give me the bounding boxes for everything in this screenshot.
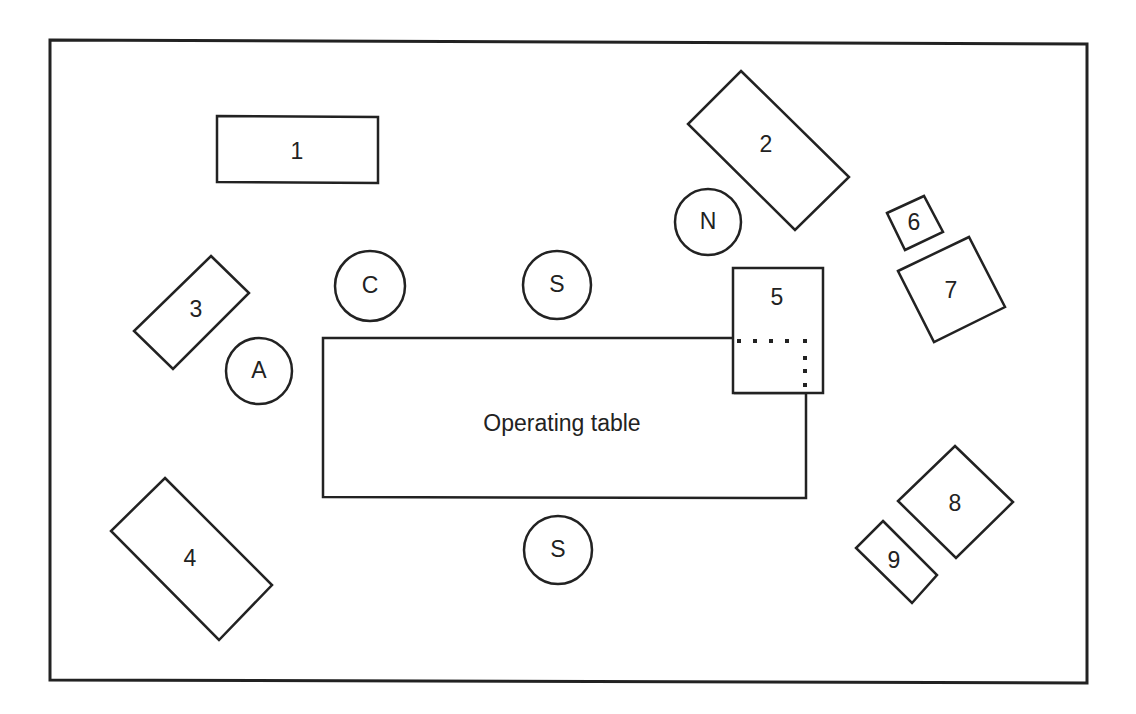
personnel-a: A [226, 338, 292, 404]
equipment-5: 5 [733, 268, 823, 393]
personnel-layer: NCSAS [226, 189, 741, 584]
equipment-label: 1 [291, 138, 304, 164]
personnel-c: C [335, 251, 405, 321]
dot [769, 339, 773, 343]
dot [803, 369, 807, 373]
personnel-s1: S [523, 251, 591, 319]
equipment-label: 2 [760, 131, 773, 157]
personnel-label: A [251, 357, 267, 383]
personnel-n: N [675, 189, 741, 255]
personnel-label: S [549, 271, 564, 297]
personnel-label: S [550, 536, 565, 562]
equipment-1: 1 [217, 116, 378, 183]
personnel-s2: S [524, 516, 592, 584]
equipment-7: 7 [898, 237, 1005, 342]
equipment-8: 8 [898, 446, 1013, 558]
equipment-label: 5 [771, 284, 784, 310]
dot [803, 383, 807, 387]
equipment-6: 6 [887, 196, 943, 250]
or-layout-diagram: Operating table 123456789 NCSAS [0, 0, 1136, 714]
dot [785, 339, 789, 343]
personnel-label: C [362, 272, 379, 298]
dot [753, 339, 757, 343]
equipment-label: 6 [908, 209, 921, 235]
dot [803, 339, 807, 343]
equipment-label: 8 [949, 490, 962, 516]
personnel-label: N [700, 208, 717, 234]
diagram-canvas: Operating table 123456789 NCSAS [0, 0, 1136, 714]
operating-table-label: Operating table [483, 410, 640, 436]
equipment-label: 9 [888, 547, 901, 573]
dot [803, 356, 807, 360]
dot [737, 339, 741, 343]
equipment-label: 7 [945, 277, 958, 303]
equipment-label: 3 [190, 296, 203, 322]
equipment-9: 9 [856, 521, 937, 603]
equipment-4: 4 [111, 478, 272, 640]
equipment-label: 4 [184, 545, 197, 571]
